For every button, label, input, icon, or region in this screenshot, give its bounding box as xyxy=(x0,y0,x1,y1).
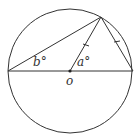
center-label: o xyxy=(66,74,73,88)
center-point xyxy=(68,69,71,72)
angle-a-label: a° xyxy=(77,55,90,69)
circle-diagram: b° a° o xyxy=(0,0,138,138)
equal-tick-mark xyxy=(83,44,89,46)
chord-top-right xyxy=(101,17,133,71)
angle-b-label: b° xyxy=(33,55,47,69)
